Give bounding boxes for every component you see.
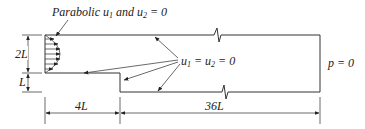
svg-text:u1 = u2 = 0: u1 = u2 = 0 xyxy=(181,54,235,69)
inlet-length-label: 4L xyxy=(75,99,88,113)
vertical-dimensions: 2L L xyxy=(14,35,42,92)
step-height-label: L xyxy=(18,75,26,89)
downstream-length-label: 36L xyxy=(204,99,224,113)
channel-diagram: Parabolic u1 and u2 = 0 u1 = u2 = 0 p = … xyxy=(0,0,365,129)
wall-bc-label: u1 = u2 = 0 xyxy=(84,37,235,91)
inlet-height-label: 2L xyxy=(15,47,28,61)
outlet-bc-label: p = 0 xyxy=(327,56,354,70)
svg-text:Parabolic u1 and u2 = 0: Parabolic u1 and u2 = 0 xyxy=(51,5,167,20)
parabolic-profile xyxy=(45,35,60,73)
horizontal-dimensions: 4L 36L xyxy=(45,97,320,124)
inlet-bc-label: Parabolic u1 and u2 = 0 xyxy=(51,5,167,36)
